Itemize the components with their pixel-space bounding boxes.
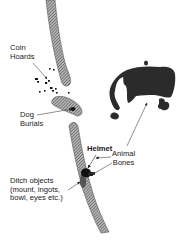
label-animal-bones: Animal Bones xyxy=(112,150,135,167)
label-ditch-objects: Ditch objects (mount, ingots, bowl, eyes… xyxy=(10,177,63,203)
upper-ditch-segment xyxy=(46,0,71,86)
animal-bones-small-deposit xyxy=(158,98,169,110)
ditch-objects-leader xyxy=(68,182,80,190)
animal-bones-leader-3 xyxy=(95,163,112,173)
animal-bones-small-deposit xyxy=(110,113,119,120)
label-helmet: Helmet xyxy=(87,145,112,154)
animal-bones-leader-1 xyxy=(127,103,147,146)
coin-hoards-leader xyxy=(33,63,47,79)
lower-ditch-segment xyxy=(69,122,109,233)
label-coin-hoards: Coin Hoards xyxy=(10,44,34,61)
site-plan-diagram: Coin Hoards Dog Burials Helmet Ditch obj… xyxy=(0,0,186,241)
helmet-leader xyxy=(88,155,96,168)
label-dog-burials: Dog Burials xyxy=(20,111,43,128)
animal-bones-small-deposit xyxy=(144,61,148,66)
animal-bones-ditch-deposit xyxy=(92,172,95,175)
animal-bones-leader-2 xyxy=(96,157,111,158)
dog-burial-ditch-segment xyxy=(52,96,82,116)
